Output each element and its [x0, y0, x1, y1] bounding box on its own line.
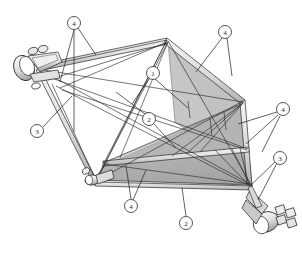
callout-4-bottom-label: 4	[129, 203, 133, 211]
truss-assembly-drawing: 441423342	[0, 0, 302, 254]
callout-4-top-left[interactable]: 4	[68, 17, 81, 30]
callout-3-right-label: 3	[278, 155, 282, 163]
callout-4-top-left-label: 4	[72, 20, 76, 28]
callout-4-right-label: 4	[281, 106, 285, 114]
callout-4-right[interactable]: 4	[277, 103, 290, 116]
callout-2-bottom-label: 2	[184, 220, 188, 228]
callout-1-center-label: 1	[151, 70, 155, 78]
callout-2-bottom[interactable]: 2	[180, 217, 193, 230]
callout-2-center-label: 2	[147, 116, 151, 124]
callout-4-top-right-label: 4	[223, 29, 227, 37]
technical-illustration: 441423342	[0, 0, 302, 254]
callout-3-right[interactable]: 3	[274, 152, 287, 165]
callout-2-center[interactable]: 2	[143, 113, 156, 126]
callout-3-left[interactable]: 3	[31, 125, 44, 138]
callout-1-center[interactable]: 1	[147, 67, 160, 80]
callout-4-bottom[interactable]: 4	[125, 200, 138, 213]
callout-4-top-right[interactable]: 4	[219, 26, 232, 39]
callout-3-left-label: 3	[35, 128, 39, 136]
